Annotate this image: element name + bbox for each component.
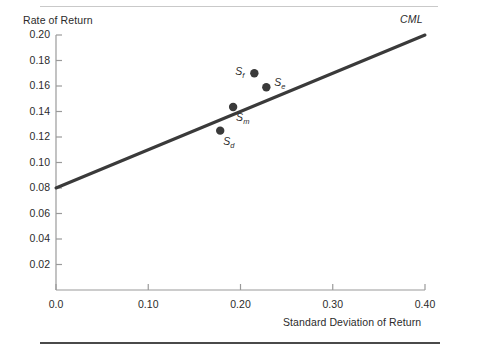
x-axis-ticks xyxy=(56,284,425,290)
y-axis-ticks xyxy=(56,35,62,265)
data-point-e xyxy=(262,83,270,91)
x-tick-label: 0.30 xyxy=(313,298,353,310)
data-point-label-m: Sm xyxy=(236,111,249,126)
data-point-m xyxy=(229,103,237,111)
data-point-label-e: Se xyxy=(274,76,285,91)
data-point-d xyxy=(216,126,224,134)
x-tick-label: 0.20 xyxy=(221,298,261,310)
y-tick-label: 0.04 xyxy=(14,232,50,244)
y-tick-label: 0.12 xyxy=(14,130,50,142)
y-tick-label: 0.08 xyxy=(14,181,50,193)
y-tick-label: 0.10 xyxy=(14,156,50,168)
y-tick-label: 0.14 xyxy=(14,105,50,117)
y-tick-label: 0.20 xyxy=(14,28,50,40)
chart-figure: Rate of Return Standard Deviation of Ret… xyxy=(0,0,478,352)
x-tick-label: 0.10 xyxy=(128,298,168,310)
y-tick-label: 0.06 xyxy=(14,207,50,219)
data-point-label-d: Sd xyxy=(223,135,234,150)
y-tick-label: 0.16 xyxy=(14,79,50,91)
x-tick-label: 0.0 xyxy=(36,298,76,310)
data-point-f xyxy=(250,69,258,77)
x-axis-title: Standard Deviation of Return xyxy=(283,316,421,328)
data-point-label-f: Sf xyxy=(235,65,244,80)
y-axis-title: Rate of Return xyxy=(23,14,93,26)
x-tick-label: 0.40 xyxy=(405,298,445,310)
y-tick-label: 0.02 xyxy=(14,258,50,270)
cml-annotation-label: CML xyxy=(400,13,423,25)
y-tick-label: 0.18 xyxy=(14,54,50,66)
